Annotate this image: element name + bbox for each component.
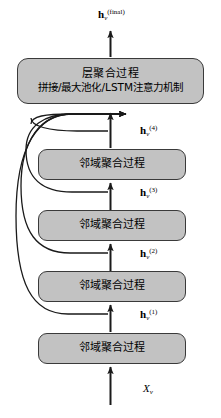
label-input-x-base: X xyxy=(143,382,150,394)
layer-aggregation-methods: 拼接/最大池化/LSTM注意力机制 xyxy=(38,81,183,93)
label-h-2: hv(2) xyxy=(140,247,157,259)
skip-connection-h4 xyxy=(31,118,108,131)
label-h-2-sup: (2) xyxy=(149,247,157,255)
neighbor-aggregation-label-1: 邻域聚合过程 xyxy=(79,342,145,355)
label-h-final-sup: (final) xyxy=(107,8,125,16)
label-h-3: hv(3) xyxy=(140,186,157,198)
label-h-4: hv(4) xyxy=(140,124,157,136)
neighbor-aggregation-label-2: 邻域聚合过程 xyxy=(79,280,145,293)
label-h-4-sup: (4) xyxy=(149,124,157,132)
neighbor-aggregation-box-3[interactable]: 邻域聚合过程 xyxy=(38,210,186,241)
neighbor-aggregation-label-4: 邻域聚合过程 xyxy=(79,158,145,171)
label-input-x-sub: v xyxy=(150,388,153,396)
label-input-x: Xv xyxy=(143,382,153,394)
neighbor-aggregation-box-1[interactable]: 邻域聚合过程 xyxy=(38,333,186,364)
neighbor-aggregation-box-2[interactable]: 邻域聚合过程 xyxy=(38,271,186,302)
neighbor-aggregation-box-4[interactable]: 邻域聚合过程 xyxy=(38,149,186,180)
neighbor-aggregation-label-3: 邻域聚合过程 xyxy=(79,219,145,232)
diagram-canvas: 层聚合过程 拼接/最大池化/LSTM注意力机制 邻域聚合过程 邻域聚合过程 邻域… xyxy=(0,0,221,418)
label-h-1-sup: (1) xyxy=(149,308,157,316)
layer-aggregation-title: 层聚合过程 xyxy=(82,68,139,81)
layer-aggregation-box[interactable]: 层聚合过程 拼接/最大池化/LSTM注意力机制 xyxy=(17,58,204,104)
label-h-final: hv(final) xyxy=(98,8,125,20)
label-h-1: hv(1) xyxy=(140,308,157,320)
label-h-3-sup: (3) xyxy=(149,186,157,194)
skip-connection-h4-up xyxy=(31,114,126,124)
